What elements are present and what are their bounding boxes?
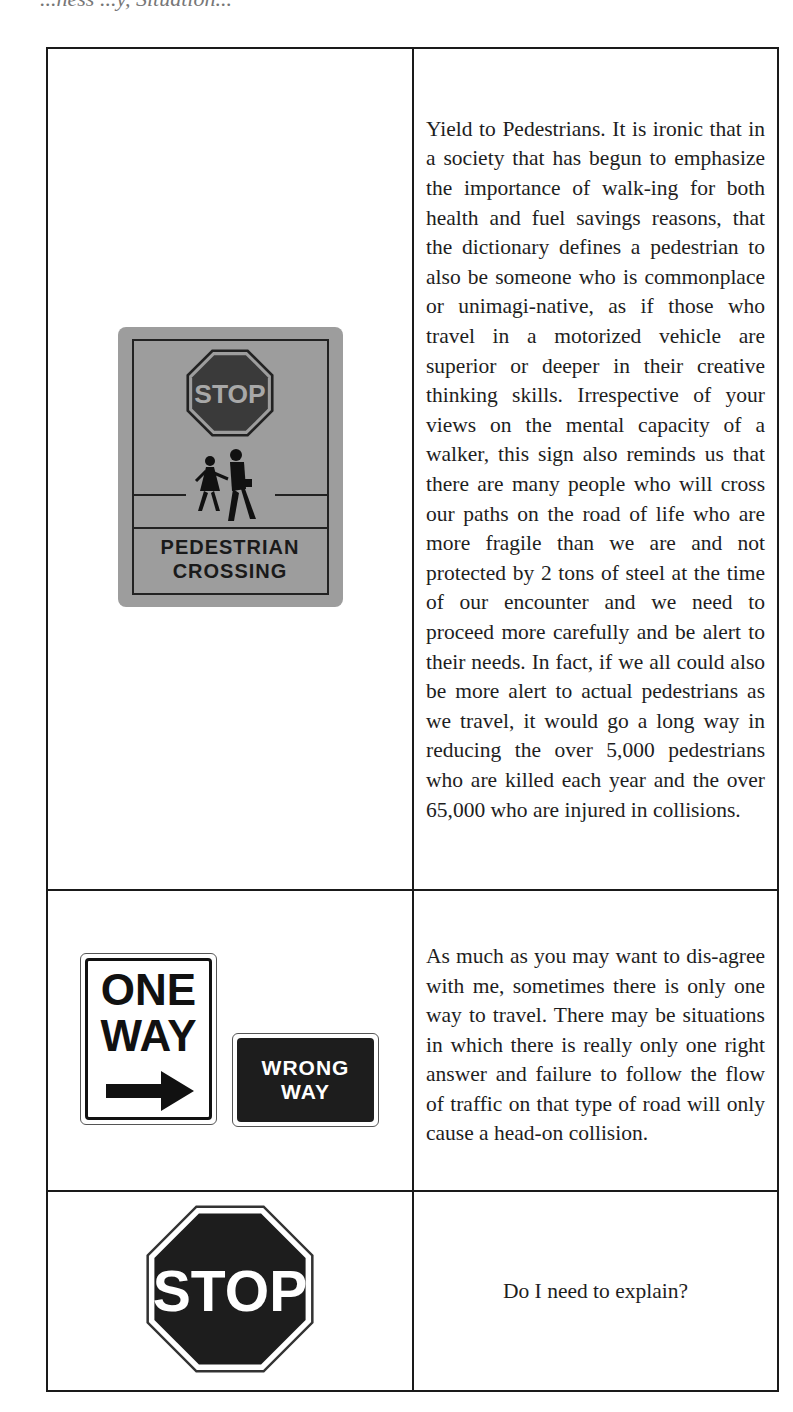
sign-cell-stop: STOP — [47, 1191, 413, 1391]
sign-cell-one-way: ONE WAY WRONG WAY — [47, 890, 413, 1191]
description-one-way: As much as you may want to dis-agree wit… — [413, 890, 778, 1191]
stop-sign-icon: STOP — [146, 1205, 314, 1373]
arrow-right-icon — [106, 1071, 196, 1111]
table-row: ONE WAY WRONG WAY — [47, 890, 778, 1191]
pedestrian-crossing-label: PEDESTRIAN CROSSING — [134, 535, 327, 583]
pedestrian-crossing-sign: STOP — [118, 327, 343, 607]
svg-text:STOP: STOP — [194, 379, 265, 409]
description-stop: Do I need to explain? — [413, 1191, 778, 1391]
sign-cell-pedestrian: STOP — [47, 48, 413, 890]
cutoff-heading: ...ness ...y, Situation... — [40, 0, 232, 12]
table-row: STOP Do I need to explain? — [47, 1191, 778, 1391]
svg-text:STOP: STOP — [153, 1259, 307, 1323]
description-pedestrian: Yield to Pedestrians. It is ironic that … — [413, 48, 778, 890]
mini-stop-sign-icon: STOP — [186, 349, 274, 437]
one-way-sign: ONE WAY — [80, 953, 217, 1125]
signs-table: STOP — [46, 47, 779, 1392]
pedestrians-icon — [186, 449, 266, 529]
table-row: STOP — [47, 48, 778, 890]
wrong-way-sign: WRONG WAY — [232, 1033, 379, 1127]
